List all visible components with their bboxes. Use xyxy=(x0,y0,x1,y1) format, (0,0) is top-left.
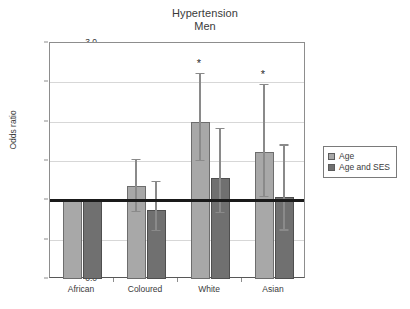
legend-item-age-and-ses[interactable]: Age and SES xyxy=(328,162,390,173)
y-axis-tick-mark xyxy=(44,278,48,279)
y-axis-label: Odds ratio xyxy=(8,85,18,175)
error-bar-cap-upper xyxy=(216,128,225,129)
y-axis-tick-mark xyxy=(44,81,48,82)
bar xyxy=(83,200,102,279)
chart-title-line-1: Hypertension xyxy=(0,7,410,20)
error-bar-line xyxy=(263,84,264,196)
error-bar-cap-lower xyxy=(152,230,161,231)
significance-star: * xyxy=(261,69,265,80)
y-axis-tick-mark xyxy=(44,42,48,43)
legend-swatch-age-icon xyxy=(328,153,335,160)
y-axis-tick-mark xyxy=(44,199,48,200)
error-bar-cap-upper xyxy=(280,144,289,145)
error-bar-cap-upper xyxy=(196,73,205,74)
y-axis-tick-mark xyxy=(44,120,48,121)
x-axis-tick-label: White xyxy=(198,284,220,294)
error-bar-line xyxy=(283,144,284,229)
error-bar-cap-lower xyxy=(280,229,289,230)
legend-swatch-age-and-ses-icon xyxy=(328,164,335,171)
chart-title: Hypertension Men xyxy=(0,7,410,33)
x-axis-tick-mark xyxy=(241,278,242,282)
legend-label-age: Age xyxy=(339,151,354,162)
legend-label-age-and-ses: Age and SES xyxy=(339,162,390,173)
chart-legend: Age Age and SES xyxy=(323,146,397,178)
reference-line xyxy=(50,199,304,202)
error-bar-cap-upper xyxy=(260,84,269,85)
legend-item-age[interactable]: Age xyxy=(328,151,390,162)
gridline xyxy=(50,122,304,123)
x-axis-tick-mark xyxy=(177,278,178,282)
error-bar-line xyxy=(155,181,156,231)
y-axis-tick-mark xyxy=(44,160,48,161)
error-bar-line xyxy=(199,73,200,160)
x-axis-tick-label: Coloured xyxy=(128,284,163,294)
y-axis-tick-mark xyxy=(44,238,48,239)
error-bar-cap-upper xyxy=(152,181,161,182)
error-bar-cap-lower xyxy=(216,212,225,213)
plot-area xyxy=(49,42,305,278)
error-bar-cap-lower xyxy=(260,196,269,197)
chart-figure: Hypertension Men Odds ratio 0.00.51.01.5… xyxy=(0,0,410,309)
error-bar-cap-lower xyxy=(132,211,141,212)
chart-title-line-2: Men xyxy=(0,20,410,33)
x-axis-tick-mark xyxy=(113,278,114,282)
error-bar-line xyxy=(135,159,136,211)
error-bar-cap-upper xyxy=(132,159,141,160)
error-bar-cap-lower xyxy=(196,160,205,161)
x-axis-tick-label: Asian xyxy=(262,284,283,294)
x-axis-tick-label: African xyxy=(68,284,94,294)
bar xyxy=(63,200,82,279)
significance-star: * xyxy=(197,58,201,69)
